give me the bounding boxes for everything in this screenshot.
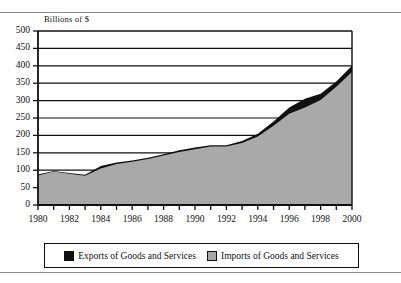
y-axis-label-200: 200 xyxy=(4,130,30,139)
x-axis-label-1980: 1980 xyxy=(23,214,53,224)
y-axis-label-350: 350 xyxy=(4,78,30,87)
x-axis-label-1984: 1984 xyxy=(86,214,116,224)
imports-swatch-icon xyxy=(207,251,217,261)
exports-swatch-icon xyxy=(64,251,74,261)
legend-label-exports: Exports of Goods and Services xyxy=(78,251,196,261)
x-axis-label-1988: 1988 xyxy=(149,214,179,224)
x-axis-label-1992: 1992 xyxy=(211,214,241,224)
y-axis-label-50: 50 xyxy=(4,183,30,192)
y-axis-label-300: 300 xyxy=(4,96,30,105)
chart-figure: Billions of $ 05010015020025030035040045… xyxy=(0,0,401,283)
x-axis-label-1982: 1982 xyxy=(54,214,84,224)
y-axis-label-0: 0 xyxy=(4,200,30,209)
y-axis-label-150: 150 xyxy=(4,148,30,157)
legend-item-imports: Imports of Goods and Services xyxy=(207,251,339,261)
chart-plot-area: Billions of $ 05010015020025030035040045… xyxy=(0,14,401,242)
x-axis-label-2000: 2000 xyxy=(337,214,367,224)
x-axis-label-1986: 1986 xyxy=(117,214,147,224)
y-axis-label-250: 250 xyxy=(4,113,30,122)
x-axis-label-1994: 1994 xyxy=(243,214,273,224)
x-axis-label-1990: 1990 xyxy=(180,214,210,224)
y-axis-label-500: 500 xyxy=(4,26,30,35)
legend-item-exports: Exports of Goods and Services xyxy=(64,251,196,261)
chart-legend: Exports of Goods and Services Imports of… xyxy=(44,243,359,268)
legend-label-imports: Imports of Goods and Services xyxy=(221,251,339,261)
x-axis-label-1998: 1998 xyxy=(306,214,336,224)
x-axis-label-1996: 1996 xyxy=(274,214,304,224)
area-chart-svg xyxy=(0,14,401,242)
y-axis-label-100: 100 xyxy=(4,165,30,174)
y-axis-label-450: 450 xyxy=(4,43,30,52)
y-axis-label-400: 400 xyxy=(4,61,30,70)
plot-canvas: 050100150200250300350400450500 198019821… xyxy=(0,14,401,242)
bottom-divider-rule xyxy=(0,272,401,273)
top-divider-rule xyxy=(0,12,401,13)
